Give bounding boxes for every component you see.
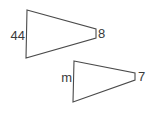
large-right-side-label: 8	[98, 26, 105, 41]
large-left-side-label: 44	[11, 28, 25, 43]
large-trapezoid-outline	[26, 10, 96, 58]
small-left-side-label: m	[61, 70, 72, 85]
small-right-side-label: 7	[138, 69, 145, 84]
similar-trapezoids-figure: 44 8 m 7	[0, 0, 155, 115]
geometry-canvas: 44 8 m 7	[0, 0, 155, 115]
small-trapezoid-outline	[73, 61, 135, 102]
